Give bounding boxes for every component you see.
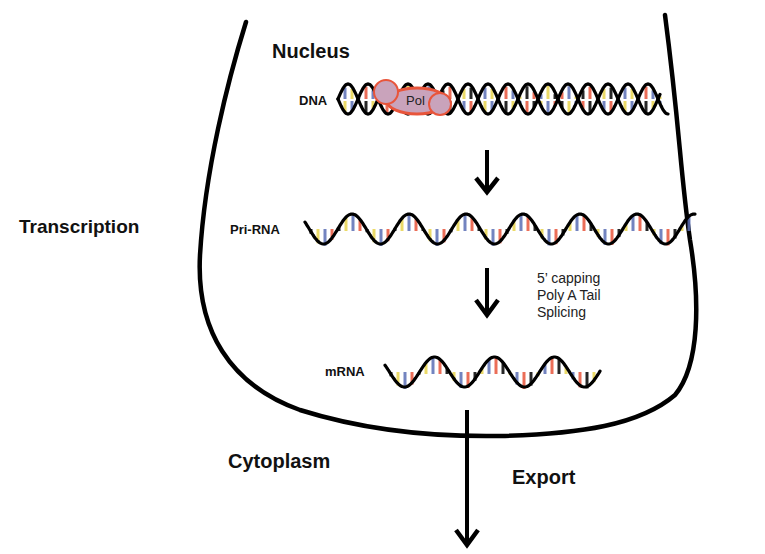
transcription-diagram: Nucleus DNA Pol Transcription Pri-RNA 5’…	[0, 0, 765, 554]
mrna-strand	[385, 357, 600, 389]
dna-label: DNA	[299, 93, 327, 108]
pol-label: Pol	[406, 93, 425, 108]
processing-step: Poly A Tail	[537, 287, 601, 304]
cytoplasm-label: Cytoplasm	[228, 450, 330, 473]
arrow-export	[456, 410, 478, 545]
export-label: Export	[512, 466, 575, 489]
processing-steps-list: 5’ capping Poly A Tail Splicing	[537, 270, 601, 321]
processing-step: Splicing	[537, 304, 601, 321]
mrna-label: mRNA	[325, 364, 365, 379]
arrow-dna-to-prirna	[476, 150, 498, 192]
pri-rna-label: Pri-RNA	[230, 222, 280, 237]
pri-rna-strand	[305, 214, 695, 246]
arrow-prirna-to-mrna	[476, 268, 498, 315]
transcription-label: Transcription	[19, 216, 139, 238]
diagram-canvas	[0, 0, 765, 554]
processing-step: 5’ capping	[537, 270, 601, 287]
nucleus-label: Nucleus	[272, 40, 350, 63]
